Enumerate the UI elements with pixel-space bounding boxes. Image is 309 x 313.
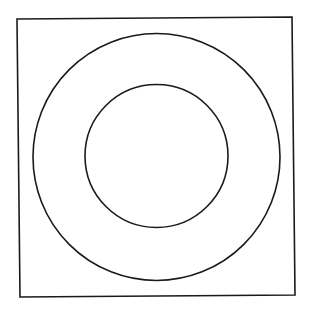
- square-frame: [17, 17, 295, 297]
- outer-circle: [33, 34, 280, 281]
- inner-circle: [85, 85, 228, 228]
- concentric-circles-diagram: [0, 0, 309, 313]
